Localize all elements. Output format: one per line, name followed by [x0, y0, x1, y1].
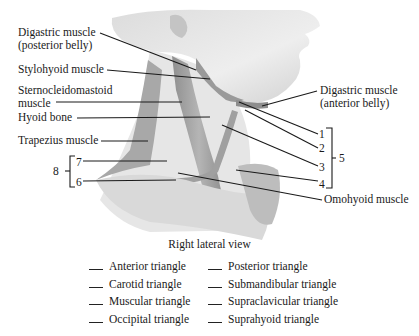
- key-label: Occipital triangle: [109, 313, 189, 325]
- number-6: 6: [76, 176, 82, 188]
- key-item: Supraclavicular triangle: [208, 295, 338, 313]
- label-hyoid-bone: Hyoid bone: [18, 111, 72, 124]
- answer-blank[interactable]: [89, 313, 103, 323]
- neck-triangles-diagram: Digastric muscle (posterior belly) Stylo…: [0, 0, 419, 336]
- key-item: Posterior triangle: [208, 260, 338, 278]
- answer-blank[interactable]: [208, 313, 222, 323]
- key-label: Carotid triangle: [109, 278, 182, 290]
- key-item: Muscular triangle: [89, 295, 190, 313]
- number-2: 2: [319, 142, 325, 154]
- key-label: Muscular triangle: [109, 295, 190, 307]
- key-label: Suprahyoid triangle: [228, 313, 319, 325]
- label-sternocleidomastoid: Sternocleidomastoid muscle: [18, 84, 113, 110]
- key-right-column: Posterior triangle Submandibular triangl…: [208, 260, 338, 330]
- label-trapezius: Trapezius muscle: [18, 134, 98, 147]
- answer-blank[interactable]: [208, 295, 222, 305]
- answer-blank[interactable]: [208, 278, 222, 288]
- number-1: 1: [319, 128, 325, 140]
- label-line: Digastric muscle: [18, 26, 96, 39]
- key-label: Anterior triangle: [109, 260, 186, 272]
- label-line: Sternocleidomastoid: [18, 84, 113, 97]
- label-digastric-posterior: Digastric muscle (posterior belly): [18, 26, 96, 52]
- key-item: Suprahyoid triangle: [208, 313, 338, 331]
- label-line: (posterior belly): [18, 39, 96, 52]
- answer-blank[interactable]: [89, 278, 103, 288]
- label-line: Digastric muscle: [320, 84, 398, 97]
- number-5: 5: [339, 152, 345, 164]
- key-left-column: Anterior triangle Carotid triangle Muscu…: [89, 260, 190, 330]
- key-label: Submandibular triangle: [228, 278, 336, 290]
- number-8: 8: [53, 165, 59, 177]
- key-item: Submandibular triangle: [208, 278, 338, 296]
- label-line: (anterior belly): [320, 97, 398, 110]
- key-label: Posterior triangle: [228, 260, 308, 272]
- answer-blank[interactable]: [208, 260, 222, 270]
- key-item: Anterior triangle: [89, 260, 190, 278]
- key-label: Supraclavicular triangle: [228, 295, 338, 307]
- label-stylohyoid: Stylohyoid muscle: [18, 63, 104, 76]
- answer-blank[interactable]: [89, 260, 103, 270]
- view-caption: Right lateral view: [0, 238, 419, 250]
- number-3: 3: [319, 161, 325, 173]
- key-item: Carotid triangle: [89, 278, 190, 296]
- label-digastric-anterior: Digastric muscle (anterior belly): [320, 84, 398, 110]
- answer-blank[interactable]: [89, 295, 103, 305]
- key-item: Occipital triangle: [89, 313, 190, 331]
- number-7: 7: [76, 156, 82, 168]
- number-4: 4: [319, 178, 325, 190]
- label-omohyoid: Omohyoid muscle: [324, 193, 409, 206]
- label-line: muscle: [18, 97, 113, 110]
